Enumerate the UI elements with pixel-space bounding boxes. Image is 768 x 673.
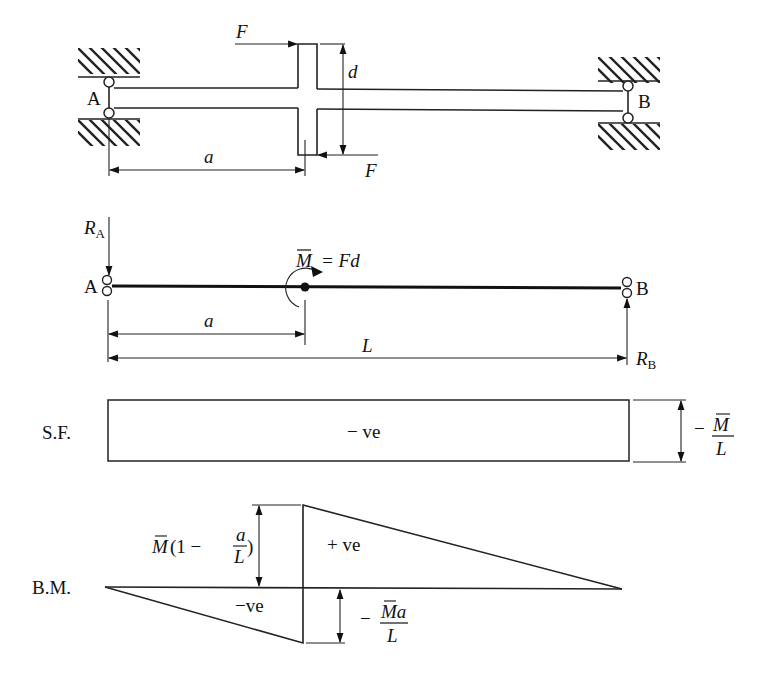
force-label-top: F <box>235 21 248 42</box>
reaction-a-label: RA <box>83 217 106 241</box>
bending-moment-diagram: B.M. + ve −ve M (1 − a L ) − Ma L <box>32 505 622 646</box>
right-roller-top <box>623 81 633 91</box>
dimension-a-label-top: a <box>204 146 214 167</box>
right-roller-bottom <box>623 113 633 123</box>
bending-moment-upper-value-rest: (1 − <box>170 536 201 558</box>
bending-moment-positive-sign: + ve <box>327 534 360 555</box>
bending-moment-negative-sign: −ve <box>235 595 264 616</box>
shear-force-value-sign: − <box>694 418 705 439</box>
moment-label: M <box>295 250 313 271</box>
right-wall-bottom-hatch <box>578 116 690 156</box>
support-label-a-top: A <box>87 88 101 109</box>
physical-beam-view: F F d a A B <box>58 21 690 181</box>
roller-b-bottom <box>623 289 632 298</box>
beam-line <box>112 286 621 288</box>
idealized-beam-view: RA A M = Fd B RB a L <box>83 217 657 372</box>
bending-moment-upper-frac-num: a <box>236 524 246 545</box>
shear-force-label: S.F. <box>42 422 71 443</box>
bending-moment-upper-close: ) <box>247 536 253 558</box>
bending-moment-upper-value-m: M <box>151 536 169 557</box>
bending-moment-baseline <box>105 587 622 589</box>
support-label-b-top: B <box>638 91 651 112</box>
force-label-bottom: F <box>364 160 377 181</box>
beam-couple-diagram: F F d a A B RA A M = Fd B RB <box>0 0 768 673</box>
dimension-a-label: a <box>204 310 214 331</box>
left-roller-top <box>104 77 114 87</box>
shear-force-diagram: S.F. − ve − M L <box>42 400 734 462</box>
beam-with-bracket <box>109 44 628 155</box>
node-label-a: A <box>84 276 98 297</box>
roller-a-bottom <box>103 287 112 296</box>
shear-force-sign: − ve <box>347 421 380 442</box>
dimension-l-label: L <box>361 335 373 356</box>
bending-moment-lower-value-sign: − <box>360 608 371 629</box>
shear-force-value-numerator: M <box>712 414 730 435</box>
left-roller-bottom <box>104 108 114 118</box>
bending-moment-upper-frac-den: L <box>233 546 245 567</box>
node-label-b: B <box>636 278 649 299</box>
reaction-b-label: RB <box>635 348 657 372</box>
bending-moment-lower-value-den: L <box>386 625 398 646</box>
left-wall-bottom-hatch <box>58 112 170 152</box>
right-wall-top-hatch <box>578 49 690 89</box>
roller-a-top <box>103 276 112 285</box>
roller-b-top <box>623 278 632 287</box>
moment-application-point <box>301 283 310 292</box>
moment-equation: = Fd <box>321 250 360 271</box>
left-wall-top-hatch <box>58 40 170 80</box>
bending-moment-label: B.M. <box>32 577 71 598</box>
bending-moment-lower-value-num: Ma <box>380 601 406 622</box>
shear-force-value-denominator: L <box>715 438 727 459</box>
dimension-d-label: d <box>348 61 358 82</box>
